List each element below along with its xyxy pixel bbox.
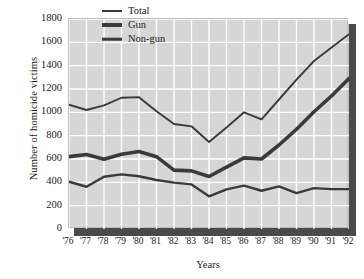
x-axis-tick-label: '88 — [272, 237, 283, 247]
legend-swatch-icon — [102, 34, 122, 45]
plot-area — [68, 18, 348, 228]
legend-item: Gun — [102, 18, 165, 32]
x-axis-tick-label: '84 — [202, 237, 213, 247]
y-axis-tick-label: 1800 — [41, 13, 62, 24]
x-axis-tick-label: '89 — [290, 237, 301, 247]
y-axis-tick-label: 800 — [46, 129, 62, 140]
plot-shadow-bottom — [74, 228, 356, 236]
x-axis-tick-label: '82 — [167, 237, 178, 247]
y-axis-tick-label: 200 — [46, 199, 62, 210]
y-axis-tick-label: 400 — [46, 176, 62, 187]
legend-item: Non-gun — [102, 32, 165, 46]
x-axis-tick-label: '81 — [150, 237, 161, 247]
chart-legend: TotalGunNon-gun — [102, 4, 165, 46]
y-axis-tick-label: 0 — [57, 223, 62, 234]
legend-label: Non-gun — [128, 34, 165, 45]
plot-shadow-right — [348, 24, 356, 234]
x-axis-tick-label: '86 — [237, 237, 248, 247]
y-axis-tick-label: 1200 — [41, 83, 62, 94]
x-axis-tick-label: '90 — [307, 237, 318, 247]
y-axis-tick-label: 1600 — [41, 36, 62, 47]
x-axis-tick-label: '87 — [255, 237, 266, 247]
x-axis-tick-label: '92 — [342, 237, 353, 247]
x-axis-title: Years — [68, 259, 348, 270]
y-axis-tick-label: 1400 — [41, 59, 62, 70]
legend-swatch-icon — [102, 20, 122, 31]
x-axis-tick-label: '91 — [325, 237, 336, 247]
legend-label: Gun — [128, 20, 146, 31]
x-axis-tick-label: '80 — [132, 237, 143, 247]
y-axis-tick-label: 1000 — [41, 106, 62, 117]
y-axis-tick-labels: 020040060080010001200140016001800 — [0, 0, 66, 279]
legend-swatch-icon — [102, 6, 122, 17]
y-axis-tick-label: 600 — [46, 153, 62, 164]
x-axis-tick-label: '76 — [62, 237, 73, 247]
x-axis-tick-label: '77 — [80, 237, 91, 247]
legend-label: Total — [128, 6, 149, 17]
x-axis-tick-label: '83 — [185, 237, 196, 247]
x-axis-tick-label: '78 — [97, 237, 108, 247]
plot-area-wrapper — [68, 18, 348, 228]
chart-svg — [69, 19, 349, 229]
x-axis-tick-labels: '76'77'78'79'80'81'82'83'84'85'86'87'88'… — [68, 237, 348, 253]
legend-item: Total — [102, 4, 165, 18]
chart-container: Number of homicide victims 0200400600800… — [0, 0, 364, 279]
x-axis-tick-label: '85 — [220, 237, 231, 247]
x-axis-tick-label: '79 — [115, 237, 126, 247]
